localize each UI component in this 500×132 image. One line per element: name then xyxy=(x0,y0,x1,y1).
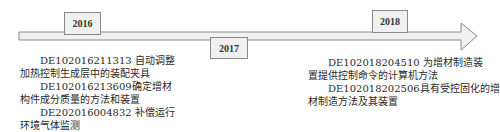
patent-title-line: 环境气体监测 xyxy=(20,119,175,132)
patent-number-line: DE102018204510 为增材制造装 xyxy=(308,56,500,69)
patent-number-line: DE102016211313 自动调整 xyxy=(20,54,175,67)
patent-title-line: 加热控制生成层中的装配夹具 xyxy=(20,67,175,80)
patent-number-line: DE102016213609确定增材 xyxy=(20,80,175,93)
patent-title-line: 构件成分质量的方法和装置 xyxy=(20,93,175,106)
patents-2016: DE102016211313 自动调整 加热控制生成层中的装配夹具 DE1020… xyxy=(20,54,175,132)
year-label: 2018 xyxy=(380,16,400,27)
year-box-2016: 2016 xyxy=(64,12,101,35)
year-box-2017: 2017 xyxy=(210,37,248,59)
patents-2018: DE102018204510 为增材制造装 置提供控制命令的计算机方法 DE10… xyxy=(308,56,500,108)
patent-title-line: 材制造方法及其装置 xyxy=(308,95,500,108)
patent-number-line: DE102018202506具有受控固化的增 xyxy=(308,82,500,95)
year-box-2018: 2018 xyxy=(372,10,408,33)
patent-number-line: DE202016004832 补偿运行 xyxy=(20,106,175,119)
patent-title-line: 置提供控制命令的计算机方法 xyxy=(308,69,500,82)
year-label: 2017 xyxy=(219,43,239,54)
year-label: 2016 xyxy=(73,18,93,29)
